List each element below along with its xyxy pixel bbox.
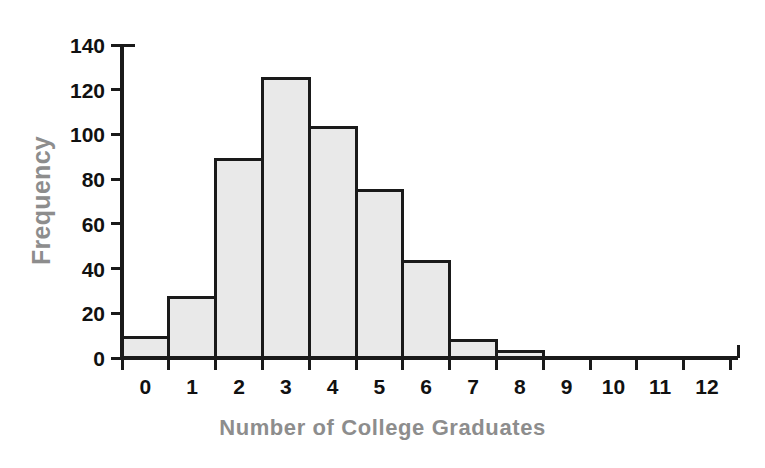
histogram-bar xyxy=(450,340,497,358)
x-tick-label: 0 xyxy=(140,375,152,398)
histogram-bar xyxy=(216,159,263,358)
histogram-bar xyxy=(356,190,403,358)
y-tick-label: 100 xyxy=(70,123,105,146)
y-tick-label: 60 xyxy=(82,213,105,236)
plot-area: 020406080100120140 0123456789101112 xyxy=(0,0,765,468)
x-tick-label: 3 xyxy=(280,375,292,398)
x-tick-label: 10 xyxy=(602,375,625,398)
y-tick-label: 120 xyxy=(70,79,105,102)
histogram-chart: Frequency 020406080100120140 01234567891… xyxy=(0,0,765,468)
x-tick-label: 12 xyxy=(695,375,718,398)
histogram-bar xyxy=(309,128,356,358)
histogram-bar xyxy=(403,262,450,358)
x-tick-label: 6 xyxy=(420,375,432,398)
histogram-bar xyxy=(262,79,309,358)
x-axis-title: Number of College Graduates xyxy=(0,415,765,441)
x-tick-label: 2 xyxy=(233,375,245,398)
x-axis-ticks: 0123456789101112 xyxy=(122,358,730,398)
y-tick-label: 0 xyxy=(93,347,105,370)
x-tick-label: 1 xyxy=(186,375,198,398)
histogram-bar xyxy=(122,338,169,358)
x-tick-label: 4 xyxy=(327,375,339,398)
x-tick-label: 8 xyxy=(514,375,526,398)
x-tick-label: 11 xyxy=(649,375,672,398)
x-tick-label: 5 xyxy=(374,375,386,398)
y-axis-ticks: 020406080100120140 xyxy=(70,34,122,370)
x-tick-label: 7 xyxy=(467,375,479,398)
x-tick-label: 9 xyxy=(561,375,573,398)
histogram-bar xyxy=(169,298,216,358)
y-tick-label: 40 xyxy=(82,258,105,281)
y-tick-label: 80 xyxy=(82,168,105,191)
y-tick-label: 20 xyxy=(82,302,105,325)
bars-group xyxy=(122,79,543,358)
y-tick-label: 140 xyxy=(70,34,105,57)
